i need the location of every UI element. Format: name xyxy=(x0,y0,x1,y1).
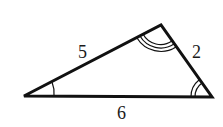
triangle-outline xyxy=(24,25,212,97)
triangle-diagram: 5 2 6 xyxy=(0,0,223,127)
side-label-ab: 5 xyxy=(78,42,87,62)
side-label-bc: 2 xyxy=(192,42,201,62)
angle-mark-a xyxy=(52,82,54,96)
side-label-ac: 6 xyxy=(117,103,126,123)
